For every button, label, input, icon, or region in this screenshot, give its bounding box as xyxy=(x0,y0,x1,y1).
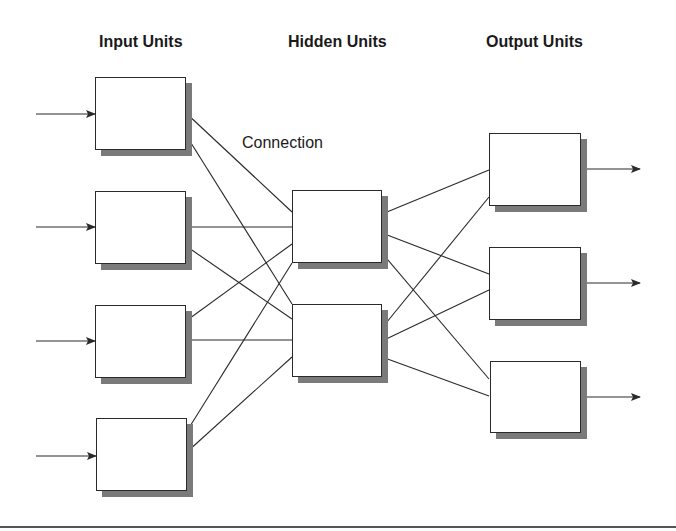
input-unit-2 xyxy=(95,191,186,264)
hidden-unit-2 xyxy=(292,304,382,377)
connection-input-3-to-hidden-1 xyxy=(186,244,292,321)
connection-input-1-to-hidden-2 xyxy=(186,135,292,304)
output-unit-2 xyxy=(489,247,581,320)
output-unit-1 xyxy=(489,133,581,206)
connection-hidden-1-to-output-2 xyxy=(382,233,489,274)
connection-hidden-1-to-output-1 xyxy=(382,170,489,214)
connection-hidden-2-to-output-1 xyxy=(382,197,489,328)
input-unit-3 xyxy=(95,305,186,378)
hidden-unit-1 xyxy=(292,190,382,263)
connection-lines xyxy=(186,113,489,452)
connection-input-1-to-hidden-1 xyxy=(186,113,292,212)
output-unit-3 xyxy=(490,361,581,433)
connection-input-4-to-hidden-2 xyxy=(187,357,292,452)
bottom-divider xyxy=(0,526,676,528)
connection-input-4-to-hidden-1 xyxy=(187,263,292,431)
input-unit-1 xyxy=(95,77,186,150)
connection-hidden-2-to-output-2 xyxy=(382,290,489,341)
connection-hidden-2-to-output-3 xyxy=(382,357,489,396)
input-unit-4 xyxy=(96,418,187,491)
